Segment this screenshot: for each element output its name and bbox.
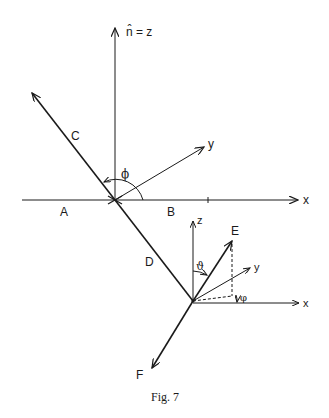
- label-a: A: [60, 205, 68, 219]
- e-ground-projection-dashed: [193, 296, 232, 301]
- lower-y-label: y: [254, 261, 260, 273]
- label-d: D: [145, 255, 154, 269]
- x-axis-label: x: [303, 193, 309, 207]
- label-c: C: [71, 129, 80, 143]
- normal-z-axis-label: n̂ = z: [126, 24, 152, 39]
- label-e: E: [231, 224, 239, 238]
- phi-azimuth-arc: [236, 295, 237, 302]
- y-axis-oblique-label: y: [208, 137, 214, 151]
- theta-label: ϑ: [196, 260, 204, 273]
- vector-c: [32, 93, 115, 200]
- figure-caption: Fig. 7: [151, 390, 179, 404]
- vector-f: [152, 301, 193, 368]
- lower-origin-point: [191, 299, 194, 302]
- figure-7-diagram: n̂ = z x C y ϕ A B D z E y x ϑ φ F Fig. …: [0, 0, 329, 418]
- azimuth-label: φ: [240, 292, 247, 303]
- label-f: F: [136, 368, 143, 382]
- segment-d: [115, 200, 193, 301]
- lower-x-label: x: [303, 297, 309, 309]
- phi-label: ϕ: [121, 167, 129, 181]
- lower-z-label: z: [197, 214, 203, 226]
- label-b: B: [167, 205, 175, 219]
